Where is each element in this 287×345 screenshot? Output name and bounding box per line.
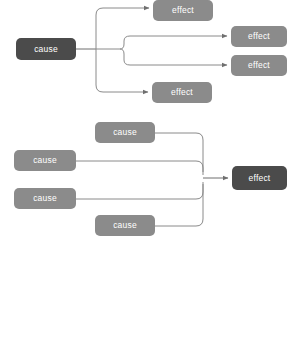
node-label: cause bbox=[33, 156, 57, 165]
node-label: effect bbox=[248, 32, 270, 41]
node-label: effect bbox=[249, 174, 271, 183]
node-cause-box[interactable]: cause bbox=[14, 188, 76, 209]
node-label: effect bbox=[172, 6, 194, 15]
node-effect-box[interactable]: effect bbox=[153, 0, 213, 21]
edge-branch-lower bbox=[120, 49, 227, 65]
node-effect-box[interactable]: effect bbox=[231, 55, 287, 76]
node-effect-box[interactable]: effect bbox=[232, 166, 287, 190]
edge-trunk-down bbox=[96, 49, 148, 92]
node-label: cause bbox=[113, 128, 137, 137]
node-effect-box[interactable]: effect bbox=[231, 26, 287, 47]
edge-cause1-to-junction bbox=[155, 133, 203, 172]
edge-cause2-to-junction bbox=[76, 161, 203, 175]
edge-cause4-to-junction bbox=[155, 184, 203, 226]
node-cause-box[interactable]: cause bbox=[16, 38, 76, 60]
node-effect-box[interactable]: effect bbox=[152, 82, 212, 103]
node-label: cause bbox=[33, 194, 57, 203]
edge-cause3-to-junction bbox=[76, 182, 203, 199]
node-label: effect bbox=[248, 61, 270, 70]
node-label: cause bbox=[34, 45, 58, 54]
node-cause-box[interactable]: cause bbox=[14, 150, 76, 171]
edge-trunk-up bbox=[96, 8, 149, 49]
connectors-many-to-one bbox=[76, 133, 228, 226]
node-label: effect bbox=[171, 88, 193, 97]
node-label: cause bbox=[113, 221, 137, 230]
node-cause-box[interactable]: cause bbox=[95, 215, 155, 236]
edge-branch-upper bbox=[120, 36, 227, 49]
node-cause-box[interactable]: cause bbox=[95, 122, 155, 143]
